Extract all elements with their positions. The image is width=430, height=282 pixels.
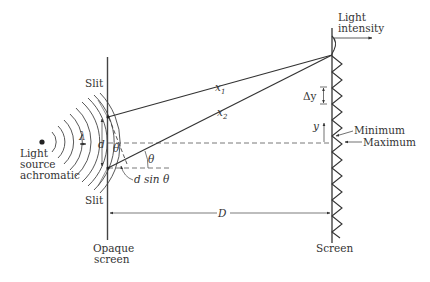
theta-upper-label: θ bbox=[113, 142, 120, 154]
minimum-label: Minimum bbox=[354, 124, 405, 136]
d-sin-theta-label: d sin θ bbox=[134, 173, 170, 185]
light-source-label-3: achromatic bbox=[20, 169, 80, 181]
slit-top-label: Slit bbox=[85, 77, 104, 89]
light-intensity-label-2: intensity bbox=[338, 22, 384, 34]
slit-top-leader bbox=[98, 100, 107, 116]
screen-label: Screen bbox=[316, 242, 354, 254]
lambda-label: λ bbox=[78, 130, 86, 142]
slit-top-point bbox=[106, 115, 109, 118]
theta-lower-label: θ bbox=[148, 153, 155, 165]
maximum-label: Maximum bbox=[363, 136, 416, 148]
delta-y-label: Δy bbox=[303, 90, 317, 102]
delta-y-marker bbox=[320, 87, 327, 104]
D-label: D bbox=[217, 207, 227, 219]
opaque-screen-label-2: screen bbox=[94, 253, 130, 265]
d-label: d bbox=[98, 138, 105, 150]
slit-bottom-label: Slit bbox=[85, 194, 104, 206]
diagram-svg: λ d θ θ d sin θ x1 x2 bbox=[0, 0, 430, 282]
minimum-pointer bbox=[336, 131, 353, 136]
y-label: y bbox=[312, 120, 320, 132]
double-slit-diagram: λ d θ θ d sin θ x1 x2 bbox=[0, 0, 430, 282]
intensity-pattern bbox=[332, 36, 342, 238]
slit-bottom-point bbox=[106, 166, 109, 169]
x1-label: x1 bbox=[215, 81, 225, 96]
light-source-dot bbox=[39, 139, 44, 144]
